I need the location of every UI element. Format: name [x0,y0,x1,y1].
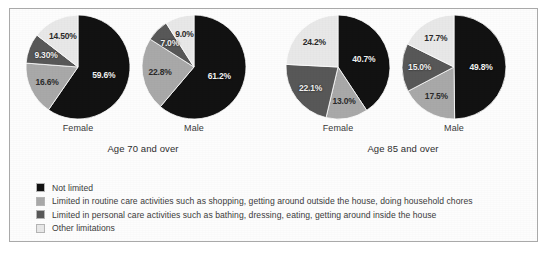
legend-item[interactable]: Not limited [36,181,531,195]
pie-chart-panel: 59.6%16.6%9.30%14.50%Female61.2%22.8%7.0… [10,13,539,163]
legend-label: Limited in personal care activities such… [52,210,436,220]
pie-slice[interactable] [454,15,506,119]
legend-swatch-icon [36,210,45,219]
pie-canvas: 40.7%13.0%22.1%24.2% [284,13,392,121]
legend-swatch-icon [36,183,45,192]
legend-label: Other limitations [52,223,115,233]
legend-swatch-icon [36,224,45,233]
pie-svg [284,13,392,121]
pie-chart-male: 61.2%22.8%7.0%9.0%Male [140,13,252,141]
pie-canvas: 59.6%16.6%9.30%14.50% [24,13,132,121]
legend-label: Not limited [52,183,93,193]
pie-sex-label: Female [284,123,392,133]
pie-sex-label: Male [140,123,248,133]
chart-legend: Not limitedLimited in routine care activ… [36,181,531,235]
legend-label: Limited in routine care activities such … [52,196,473,206]
pie-group-label: Age 70 and over [18,143,268,154]
pie-chart-male: 49.8%17.5%15.0%17.7%Male [400,13,512,141]
pie-slice[interactable] [286,15,338,67]
pie-pair: 40.7%13.0%22.1%24.2%Female49.8%17.5%15.0… [278,13,528,125]
pie-svg [24,13,132,121]
legend-item[interactable]: Other limitations [36,222,531,236]
legend-item[interactable]: Limited in routine care activities such … [36,195,531,209]
pie-group-age-70: 59.6%16.6%9.30%14.50%Female61.2%22.8%7.0… [18,13,268,163]
legend-item[interactable]: Limited in personal care activities such… [36,208,531,222]
pie-sex-label: Female [24,123,132,133]
chart-frame: 59.6%16.6%9.30%14.50%Female61.2%22.8%7.0… [9,8,538,242]
pie-chart-female: 59.6%16.6%9.30%14.50%Female [24,13,136,141]
pie-svg [400,13,508,121]
pie-sex-label: Male [400,123,508,133]
pie-pair: 59.6%16.6%9.30%14.50%Female61.2%22.8%7.0… [18,13,268,125]
pie-chart-female: 40.7%13.0%22.1%24.2%Female [284,13,396,141]
legend-swatch-icon [36,197,45,206]
pie-group-age-85: 40.7%13.0%22.1%24.2%Female49.8%17.5%15.0… [278,13,528,163]
pie-canvas: 49.8%17.5%15.0%17.7% [400,13,508,121]
pie-svg [140,13,248,121]
pie-canvas: 61.2%22.8%7.0%9.0% [140,13,248,121]
pie-group-label: Age 85 and over [278,143,528,154]
